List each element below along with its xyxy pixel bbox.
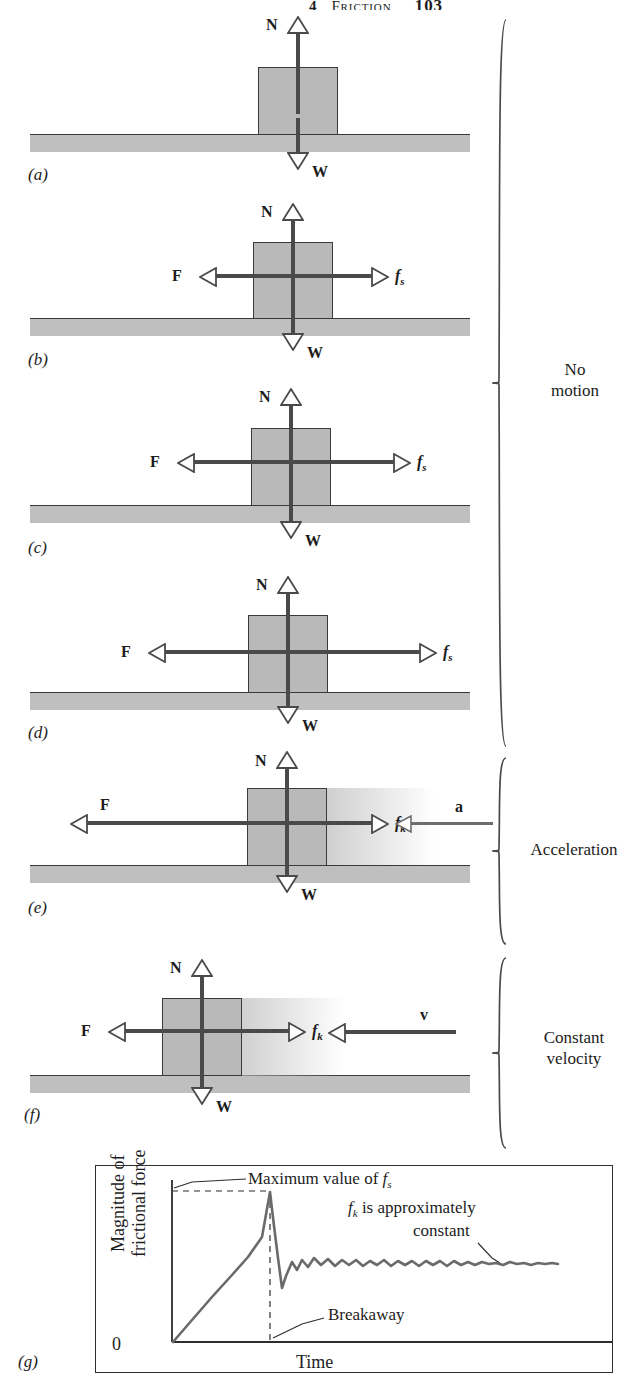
panel-tag-f: (f) [24, 1105, 40, 1125]
applied-force-shaft-f [122, 1029, 204, 1033]
ground-surface-b [30, 318, 470, 336]
velocity-label-f: v [420, 1007, 428, 1023]
acceleration-arrowhead-e [395, 815, 412, 833]
weight-force-label-d: W [302, 718, 318, 734]
panel-tag-b: (b) [28, 350, 48, 370]
panel-tag-a: (a) [28, 165, 48, 185]
weight-force-arrowhead-e [276, 875, 298, 893]
normal-force-label-b: N [261, 204, 273, 220]
static-friction-label-d: fs [443, 644, 453, 663]
group-label-no-motion-line2: motion [525, 381, 625, 402]
weight-force-label-c: W [305, 533, 321, 549]
normal-force-label-d: N [256, 577, 268, 593]
normal-force-label-c: N [259, 389, 271, 405]
weight-force-label-b: W [307, 345, 323, 361]
normal-force-arrowhead-b [282, 203, 304, 221]
ground-surface-c [30, 505, 470, 523]
velocity-shaft-f [343, 1030, 456, 1034]
normal-force-label-e: N [255, 753, 267, 769]
panel-tag-e: (e) [28, 898, 47, 918]
applied-force-shaft-e [85, 821, 289, 825]
panel-tag-g: (g) [18, 1352, 38, 1372]
applied-force-shaft-c [192, 460, 293, 464]
brace-constant-velocity [492, 956, 518, 1152]
applied-force-label-b: F [172, 268, 182, 284]
applied-force-label-f: F [81, 1023, 91, 1039]
y-axis-label-line1: Magnitude of [108, 1118, 129, 1288]
static-friction-arrowhead-b [371, 267, 389, 287]
panel-d: N W F fs (d) [0, 570, 500, 755]
applied-force-arrowhead-c [177, 453, 195, 473]
annotation-kinetic-constant-line2: constant [348, 1221, 476, 1241]
kinetic-constant-leader [478, 1243, 500, 1263]
normal-force-arrowhead-c [280, 388, 302, 406]
weight-force-label-a: W [312, 164, 328, 180]
static-friction-label-b: fs [395, 268, 405, 287]
y-axis-label-line2: frictional force [129, 1118, 150, 1288]
breakaway-leader [273, 1318, 324, 1338]
weight-force-arrowhead-a [287, 152, 309, 170]
weight-force-arrowhead-c [280, 521, 302, 539]
applied-force-arrowhead-e [70, 814, 88, 834]
kinetic-friction-arrowhead-e [371, 814, 389, 834]
acceleration-label-e: a [455, 799, 463, 815]
annotation-kinetic-constant: fk is approximately constant [348, 1198, 476, 1241]
applied-force-shaft-b [213, 274, 295, 278]
static-friction-arrowhead-d [419, 643, 437, 663]
x-axis-label: Time [296, 1352, 333, 1374]
applied-force-arrowhead-d [148, 643, 166, 663]
panel-tag-c: (c) [28, 538, 47, 558]
static-friction-shaft-d [286, 650, 421, 654]
normal-force-arrowhead-d [277, 576, 299, 594]
normal-force-arrowhead-e [276, 751, 298, 769]
applied-force-label-e: F [100, 797, 110, 813]
normal-force-shaft-f [200, 973, 204, 1045]
applied-force-label-c: F [150, 454, 160, 470]
weight-force-label-e: W [301, 887, 317, 903]
y-axis-label: Magnitude of frictional force [108, 1118, 150, 1288]
normal-force-label-f: N [170, 960, 182, 976]
panel-c: N W F fs (c) [0, 380, 500, 570]
kinetic-friction-shaft-e [285, 821, 373, 825]
weight-force-shaft-c [289, 472, 293, 527]
applied-force-arrowhead-b [199, 267, 217, 287]
kinetic-friction-shaft-f [200, 1029, 290, 1033]
acceleration-shaft-e [408, 822, 493, 825]
friction-vs-time-graph: Maximum value of fs fk is approximately … [95, 1165, 613, 1373]
group-label-no-motion: No motion [525, 360, 625, 401]
normal-force-shaft-b [291, 217, 295, 291]
kinetic-friction-arrowhead-f [288, 1022, 306, 1042]
group-label-constant-velocity-line1: Constant [518, 1028, 630, 1049]
annotation-breakaway: Breakaway [328, 1305, 404, 1325]
ground-surface-a [30, 134, 470, 152]
brace-no-motion [492, 18, 518, 748]
panel-a: N W (a) [0, 0, 500, 195]
ground-surface-e [30, 865, 470, 883]
weight-force-arrowhead-f [191, 1087, 213, 1105]
normal-force-label-a: N [266, 17, 278, 33]
weight-force-label-f: W [216, 1099, 232, 1115]
static-friction-shaft-b [291, 274, 373, 278]
applied-force-arrowhead-f [108, 1022, 126, 1042]
annotation-max-static-friction: Maximum value of fs [248, 1169, 392, 1192]
max-static-leader [174, 1179, 246, 1188]
static-friction-arrowhead-c [393, 453, 411, 473]
ground-surface-d [30, 692, 470, 710]
weight-force-arrowhead-b [282, 333, 304, 351]
group-label-constant-velocity-line2: velocity [518, 1049, 630, 1070]
static-friction-shaft-c [289, 460, 395, 464]
weight-force-shaft-e [285, 831, 289, 881]
weight-force-arrowhead-d [277, 706, 299, 724]
weight-force-shaft-d [286, 660, 290, 712]
group-label-acceleration-line1: Acceleration [518, 840, 630, 861]
panel-b: N W F fs (b) [0, 195, 500, 380]
normal-force-arrowhead-f [191, 959, 213, 977]
origin-tick-label: 0 [112, 1334, 121, 1356]
applied-force-label-d: F [121, 644, 131, 660]
static-friction-label-c: fs [417, 454, 427, 473]
normal-force-shaft-c [289, 402, 293, 476]
weight-force-shaft-f [200, 1041, 204, 1093]
applied-force-shaft-d [163, 650, 290, 654]
brace-acceleration [492, 756, 518, 948]
normal-force-arrowhead-a [287, 16, 309, 34]
